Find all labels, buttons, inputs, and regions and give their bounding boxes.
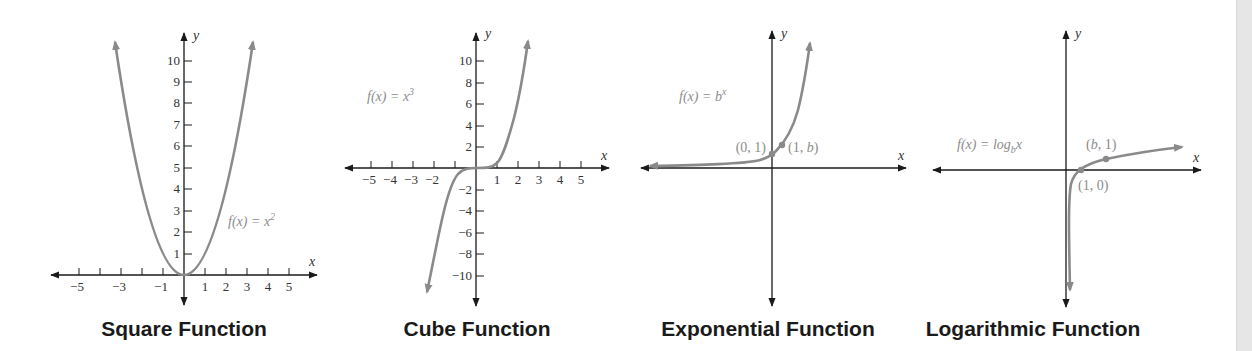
logarithmic-curve	[1069, 147, 1182, 290]
cube-y-tick-label: 8	[466, 75, 473, 90]
cube-function-title: Cube Function	[404, 317, 551, 340]
square-x-tick-label: −5	[70, 279, 84, 294]
cube-x-axis-label: x	[600, 148, 608, 163]
logarithmic-point-1-0	[1078, 167, 1084, 173]
cube-y-tick-label: −4	[458, 203, 472, 218]
square-x-tick-label: −3	[112, 279, 126, 294]
exponential-x-axis-label: x	[897, 148, 905, 163]
square-x-tick-label: 2	[223, 279, 230, 294]
square-y-tick-label: 3	[174, 203, 181, 218]
cube-y-tick-label: −8	[458, 246, 472, 261]
exponential-point-1-b-label: (1, b)	[788, 140, 819, 156]
square-x-tick-label: 1	[202, 279, 209, 294]
logarithmic-function-title: Logarithmic Function	[926, 317, 1141, 340]
logarithmic-function-label: f(x) = logbx	[957, 137, 1023, 155]
logarithmic-x-axis-label: x	[1192, 150, 1200, 165]
square-x-tick-label: 3	[244, 279, 251, 294]
cube-x-tick-label: 4	[557, 172, 564, 187]
square-y-tick-label: 4	[174, 181, 181, 196]
square-function-title: Square Function	[101, 317, 267, 340]
square-x-tick-label: −1	[154, 279, 168, 294]
square-y-axis-label: y	[191, 28, 200, 43]
square-y-tick-label: 6	[174, 138, 181, 153]
cube-x-tick-label: 5	[578, 172, 585, 187]
square-y-tick-label: 5	[174, 160, 181, 175]
square-function-panel: −5 −3 −1 1 2 3 4 5 1 2 3 4 5 6 7 8 9 10	[51, 28, 317, 340]
cube-y-tick-label: 4	[466, 118, 473, 133]
logarithmic-point-1-0-label: (1, 0)	[1078, 178, 1109, 194]
square-x-axis-label: x	[308, 254, 316, 269]
cube-x-tick-label: 3	[536, 172, 543, 187]
square-y-tick-label: 9	[174, 74, 181, 89]
cube-y-tick-label: −2	[458, 182, 472, 197]
square-y-ticks	[184, 61, 192, 254]
cube-function-label: f(x) = x3	[367, 86, 414, 105]
exponential-point-0-1-label: (0, 1)	[736, 140, 767, 156]
exponential-function-title: Exponential Function	[661, 317, 875, 340]
square-y-tick-label: 10	[167, 53, 180, 68]
cube-y-tick-label: −6	[458, 225, 472, 240]
square-y-tick-label: 2	[174, 224, 181, 239]
cube-x-tick-label: 1	[494, 172, 501, 187]
cube-y-axis-label: y	[483, 26, 492, 41]
logarithmic-function-panel: x y (1, 0) (b, 1) f(x) = logbx Logarithm…	[926, 26, 1201, 340]
exponential-function-panel: x y (0, 1) (1, b) f(x) = bx Exponential …	[641, 26, 906, 340]
logarithmic-point-b-1-label: (b, 1)	[1086, 137, 1117, 153]
cube-y-tick-label: 10	[459, 53, 472, 68]
exponential-point-1-b	[779, 142, 785, 148]
cube-x-tick-label: −5	[362, 172, 376, 187]
cube-y-tick-label: 6	[466, 96, 473, 111]
cube-y-tick-label: 2	[466, 139, 473, 154]
logarithmic-y-axis-label: y	[1073, 26, 1082, 41]
cube-x-tick-label: 2	[515, 172, 522, 187]
cube-function-panel: −5 −4 −3 −2 1 2 3 4 5 10 8 6 4 2 −2 −4 −…	[345, 26, 609, 340]
exponential-y-axis-label: y	[779, 26, 788, 41]
square-x-tick-label: 4	[265, 279, 272, 294]
exponential-point-0-1	[769, 151, 775, 157]
square-y-tick-label: 1	[174, 246, 181, 261]
logarithmic-point-b-1	[1103, 156, 1109, 162]
cube-x-tick-label: −4	[383, 172, 397, 187]
cube-x-tick-label: −2	[425, 172, 439, 187]
exponential-curve	[650, 43, 810, 166]
square-y-tick-label: 8	[174, 95, 181, 110]
exponential-function-label: f(x) = bx	[679, 86, 727, 105]
square-function-label: f(x) = x2	[228, 211, 275, 230]
cube-x-tick-label: −3	[404, 172, 418, 187]
cube-y-tick-label: −10	[452, 268, 472, 283]
square-x-tick-label: 5	[286, 279, 293, 294]
square-y-tick-label: 7	[174, 117, 181, 132]
